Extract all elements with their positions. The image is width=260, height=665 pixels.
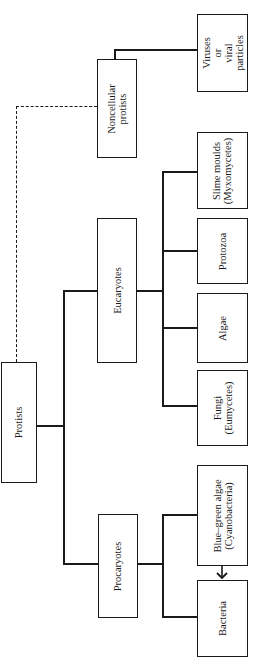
node-slime-moulds: Slime moulds (Myxomycetes) (197, 132, 248, 209)
connector-protists-trunk (63, 290, 65, 564)
node-label: Protists (13, 407, 24, 439)
node-procaryotes: Procaryotes (98, 514, 138, 618)
connector-to-procaryotes (63, 563, 98, 565)
node-label: Fungi (Eumycetes) (212, 381, 234, 434)
node-viruses: Viruses or viral particles (197, 14, 248, 92)
connector-to-bacteria (162, 616, 197, 618)
node-blue-green-algae: Blue–green algae (Cyanobacteria) (197, 465, 248, 566)
connector-procaryotes-out (137, 563, 163, 565)
node-label: Protozoa (217, 232, 228, 269)
connector-to-protozoa (162, 250, 197, 252)
node-label: Algae (217, 315, 228, 340)
connector-eucaryotes-out (137, 290, 163, 292)
node-label: Blue–green algae (Cyanobacteria) (212, 479, 234, 552)
connector-to-algae (162, 327, 197, 329)
connector-protists-out (36, 425, 64, 427)
node-label: Noncellular protists (106, 84, 128, 134)
node-eucaryotes: Eucaryotes (97, 218, 137, 363)
node-label: Slime moulds (Myxomycetes) (212, 137, 234, 203)
arrow-down-icon (215, 565, 229, 581)
connector-to-slime (162, 171, 197, 173)
connector-to-fungi (162, 405, 197, 407)
dashed-connector-vertical (16, 106, 17, 362)
connector-to-viruses (114, 49, 197, 51)
node-protists: Protists (1, 362, 37, 483)
connector-eucaryotes-trunk (162, 171, 164, 406)
node-protozoa: Protozoa (197, 218, 248, 284)
connector-to-bluegreen (162, 514, 197, 516)
node-label: Bacteria (217, 601, 228, 636)
node-fungi: Fungi (Eumycetes) (197, 370, 248, 446)
node-algae: Algae (197, 293, 248, 363)
connector-procaryotes-trunk (162, 514, 164, 617)
node-noncellular-protists: Noncellular protists (97, 59, 137, 158)
dashed-connector-horizontal (16, 106, 97, 107)
connector-to-eucaryotes (63, 290, 97, 292)
node-label: Eucaryotes (112, 267, 123, 314)
node-label: Viruses or viral particles (200, 35, 244, 71)
node-label: Procaryotes (113, 541, 124, 591)
node-bacteria: Bacteria (197, 580, 248, 657)
